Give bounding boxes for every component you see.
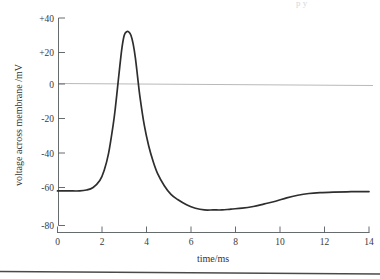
x-tick-label: 10 — [275, 237, 285, 247]
page-bottom-rule — [0, 272, 380, 275]
y-tick-label: -80 — [41, 221, 54, 231]
clipped-text-fragment: p y — [296, 0, 308, 8]
x-axis-title: time/ms — [197, 253, 229, 264]
y-tick-label: -60 — [41, 183, 54, 193]
x-tick-label: 8 — [233, 237, 238, 247]
zero-reference-line — [58, 84, 373, 86]
x-axis-ticks — [58, 227, 370, 233]
action-potential-figure: p y +40 +20 0 -20 -40 -60 -80 voltage ac… — [0, 0, 380, 279]
x-tick-label: 6 — [189, 237, 194, 247]
x-axis-tick-labels: 0 2 4 6 8 10 12 14 — [55, 237, 374, 247]
x-tick-label: 0 — [55, 237, 60, 247]
y-axis-title: voltage across membrane /mV — [13, 63, 24, 186]
x-tick-label: 14 — [364, 237, 374, 247]
x-tick-label: 2 — [100, 237, 105, 247]
y-tick-label: -20 — [41, 114, 54, 124]
y-tick-label: 0 — [49, 80, 54, 90]
y-tick-label: +20 — [39, 48, 54, 58]
y-tick-label: +40 — [39, 14, 54, 24]
x-tick-label: 12 — [320, 237, 330, 247]
membrane-potential-trace — [58, 31, 370, 210]
x-tick-label: 4 — [144, 237, 149, 247]
y-axis-tick-labels: +40 +20 0 -20 -40 -60 -80 — [39, 14, 54, 232]
y-axis-ticks — [59, 18, 66, 226]
y-tick-label: -40 — [41, 149, 54, 159]
